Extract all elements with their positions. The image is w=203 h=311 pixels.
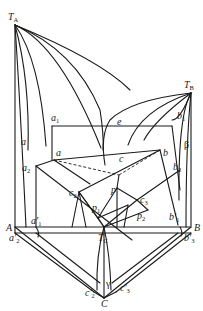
label-b2: b2 [173,161,181,173]
label-a1-prime: a'1 [31,215,41,227]
tie-lines [36,126,180,240]
label-a2-prime: a'2 [9,232,19,244]
label-c: c [119,153,124,164]
label-a-inner: a [56,147,61,158]
label-c2: c2 [69,187,77,199]
label-TB: TB [184,79,195,91]
label-b1-prime: b'1 [169,211,179,223]
label-a1: a1 [51,112,59,124]
central-structure [72,150,180,227]
vertical-axes [15,25,191,298]
label-c3-prime: c'3 [120,282,130,294]
label-TA: TA [8,11,19,23]
labels: TA TB TC A B C e a a a1 a2 a'1 a'2 b b1 … [5,11,200,309]
label-p1: p1 [91,202,100,214]
label-e: e [117,116,122,127]
label-c2-prime: c'2 [85,287,95,299]
label-b: b [163,147,168,158]
label-a: a [21,136,26,147]
label-C: C [101,298,108,309]
label-B: B [194,222,200,233]
ternary-phase-diagram: TA TB TC A B C e a a a1 a2 a'1 a'2 b b1 … [0,0,203,311]
label-b3-prime: b'3 [184,232,194,244]
label-TC: TC [98,232,108,244]
label-gamma: γ [105,278,111,289]
label-a2: a2 [22,162,30,174]
label-c3: c3 [140,194,148,206]
label-p: p [110,184,116,195]
label-beta: β [184,139,189,150]
